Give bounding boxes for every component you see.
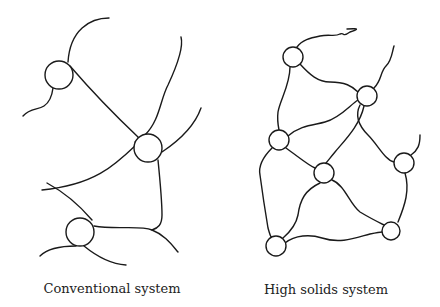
network-diagram-canvas: [0, 0, 440, 307]
polymer-chain: [94, 226, 178, 252]
conventional-network: [23, 18, 201, 265]
crosslink-node: [314, 163, 334, 183]
polymer-chain: [145, 37, 182, 135]
polymer-chain: [84, 246, 126, 265]
polymer-chain: [332, 180, 384, 225]
conventional-system-caption: Conventional system: [43, 281, 180, 296]
polymer-chain: [152, 160, 162, 230]
crosslink-node: [269, 130, 289, 150]
high-solids-system-caption: High solids system: [264, 282, 388, 297]
crosslink-node: [357, 86, 377, 106]
polymer-chain: [358, 105, 394, 162]
polymer-chain: [40, 246, 76, 256]
polymer-chain: [288, 100, 358, 136]
polymer-chain: [68, 18, 109, 62]
polymer-chain: [411, 135, 420, 155]
polymer-chain: [283, 183, 320, 238]
polymer-chain: [285, 232, 382, 243]
polymer-chain: [374, 46, 394, 88]
network-comparison-figure: Conventional system High solids system: [0, 0, 440, 307]
polymer-chain: [297, 29, 356, 47]
crosslink-node: [394, 153, 414, 173]
polymer-chain: [42, 144, 137, 190]
crosslink-node: [382, 222, 400, 240]
polymer-chain: [70, 66, 139, 142]
polymer-chain: [23, 88, 53, 116]
crosslink-node: [45, 61, 73, 89]
polymer-chain: [162, 108, 201, 152]
crosslink-node: [66, 218, 94, 246]
polymer-chain: [300, 64, 358, 92]
polymer-chain: [398, 173, 407, 222]
polymer-chain: [260, 148, 272, 237]
polymer-chain: [278, 67, 290, 130]
crosslink-node: [134, 134, 162, 162]
crosslink-node: [266, 236, 286, 256]
conventional-nodes: [45, 61, 162, 246]
polymer-chain: [286, 148, 315, 168]
crosslink-node: [283, 47, 303, 67]
